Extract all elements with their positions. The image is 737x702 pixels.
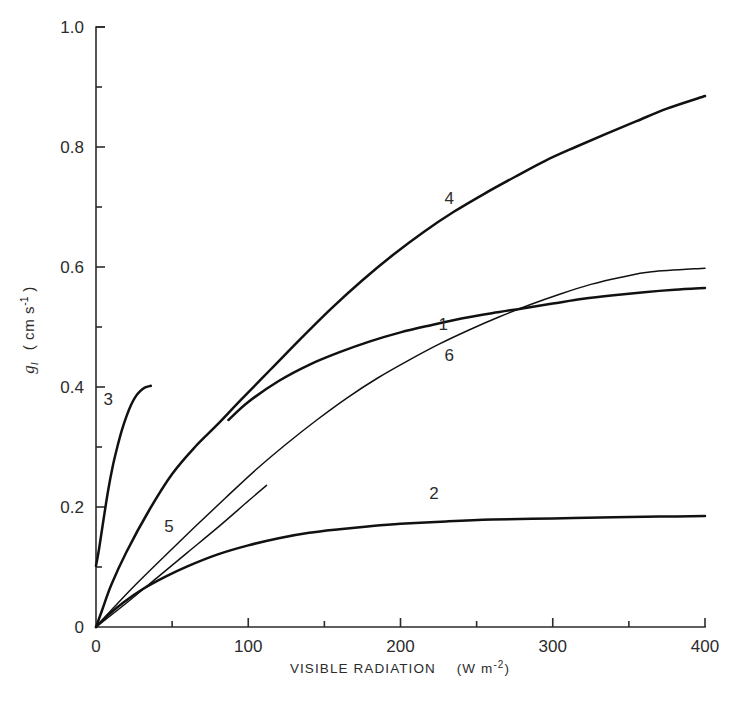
- y-tick-label: 1.0: [60, 18, 84, 37]
- x-axis-unit-open: (W m: [457, 661, 494, 676]
- x-axis-title: VISIBLE RADIATION (W m-2): [290, 659, 510, 676]
- y-tick-label: 0.4: [60, 378, 84, 397]
- curve-label-3: 3: [103, 390, 112, 409]
- y-tick-label: 0: [75, 618, 84, 637]
- curve-label-6: 6: [444, 346, 453, 365]
- curve-series-1: [228, 288, 705, 420]
- y-tick-label: 0.6: [60, 258, 84, 277]
- x-tick-label: 100: [234, 637, 262, 656]
- curve-series-5: [96, 485, 267, 627]
- tick-labels-group: 00.20.40.60.81.00100200300400: [60, 18, 719, 656]
- y-tick-label: 0.2: [60, 498, 84, 517]
- curve-label-5: 5: [164, 517, 173, 536]
- y-axis-title: gl( cm s-1 ): [18, 286, 40, 374]
- curve-label-1: 1: [438, 315, 447, 334]
- x-tick-label: 0: [91, 637, 100, 656]
- curves-group: [96, 96, 705, 627]
- chart-plot: 00.20.40.60.81.00100200300400 123456 VIS…: [0, 0, 737, 702]
- x-tick-label: 200: [386, 637, 414, 656]
- svg-text:VISIBLE RADIATION (W m: VISIBLE RADIATION (W m-2): [290, 659, 510, 676]
- figure-container: 00.20.40.60.81.00100200300400 123456 VIS…: [0, 0, 737, 702]
- curve-series-6: [96, 268, 705, 627]
- axis-lines: [96, 27, 705, 627]
- x-tick-label: 400: [691, 637, 719, 656]
- y-tick-label: 0.8: [60, 138, 84, 157]
- x-axis-unit-close: ): [504, 661, 510, 676]
- curve-series-2: [96, 516, 705, 627]
- curve-series-4: [96, 96, 705, 627]
- y-axis-subscript: l: [28, 362, 40, 365]
- svg-text:gl( cm s-1 ): gl( cm s-1 ): [18, 286, 40, 374]
- y-axis-unit-open: ( cm s: [20, 306, 37, 350]
- y-axis-symbol: g: [19, 365, 38, 374]
- x-tick-label: 300: [539, 637, 567, 656]
- y-axis-unit-exponent: -1: [18, 296, 30, 305]
- axes-group: [96, 27, 705, 627]
- ticks-group: [96, 27, 705, 627]
- curve-label-4: 4: [444, 189, 453, 208]
- curve-series-3: [96, 386, 151, 566]
- x-axis-unit-exponent: -2: [493, 659, 504, 670]
- curve-label-2: 2: [429, 484, 438, 503]
- x-axis-title-text: VISIBLE RADIATION: [290, 661, 436, 676]
- y-axis-unit-close: ): [20, 286, 37, 296]
